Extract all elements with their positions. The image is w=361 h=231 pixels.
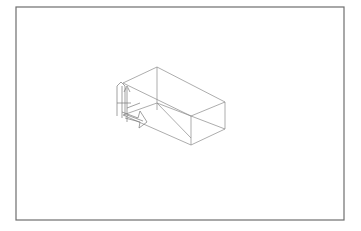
y-axis-arrow-outline — [117, 82, 125, 116]
box-edge — [123, 115, 191, 145]
box-edge — [191, 102, 225, 116]
box-diagonal — [157, 103, 191, 138]
box-edge — [157, 67, 225, 102]
wireframe-box[interactable] — [123, 67, 225, 145]
viewport-frame — [16, 7, 344, 220]
axis-gizmo[interactable] — [117, 82, 147, 128]
box-edge — [123, 103, 157, 115]
gizmo-diag — [127, 103, 140, 108]
drawing-viewport[interactable] — [0, 0, 361, 231]
box-edge — [191, 129, 225, 145]
box-edge — [123, 67, 157, 83]
x-axis-arrow-outline — [122, 111, 147, 128]
